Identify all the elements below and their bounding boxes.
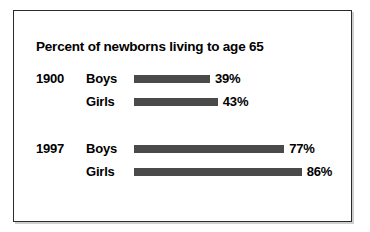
group-year-label: 1997 xyxy=(36,141,82,156)
bar-value-label: 77% xyxy=(289,141,314,156)
bar-track: 43% xyxy=(134,92,351,115)
chart-title: Percent of newborns living to age 65 xyxy=(36,39,264,54)
series-label: Girls xyxy=(86,164,115,179)
chart-group-1997: 1997 Boys 77% Girls 86% xyxy=(14,139,351,185)
bar-track: 39% xyxy=(134,69,351,92)
bar-track: 86% xyxy=(134,162,351,185)
bar-row: Girls 86% xyxy=(14,162,351,185)
series-label: Boys xyxy=(86,71,117,86)
bar-value-label: 39% xyxy=(215,71,240,86)
bar xyxy=(134,168,302,176)
series-label: Boys xyxy=(86,141,117,156)
chart-frame: Percent of newborns living to age 65 190… xyxy=(13,10,352,222)
bar-row: 1997 Boys 77% xyxy=(14,139,351,162)
bar-row: 1900 Boys 39% xyxy=(14,69,351,92)
bar-value-label: 43% xyxy=(223,94,248,109)
bar-row: Girls 43% xyxy=(14,92,351,115)
bar xyxy=(134,98,218,106)
series-label: Girls xyxy=(86,94,115,109)
group-year-label: 1900 xyxy=(36,71,82,86)
bar-track: 77% xyxy=(134,139,351,162)
bar xyxy=(134,145,284,153)
bar xyxy=(134,75,210,83)
bar-value-label: 86% xyxy=(307,164,332,179)
chart-group-1900: 1900 Boys 39% Girls 43% xyxy=(14,69,351,115)
